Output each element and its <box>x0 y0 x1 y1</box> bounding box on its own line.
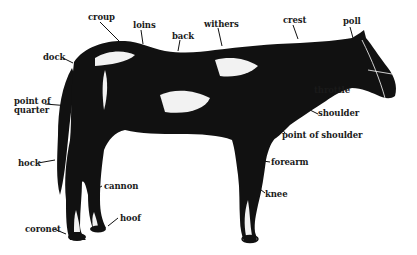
label-knee: knee <box>265 190 288 199</box>
label-croup: croup <box>88 13 115 22</box>
label-hock: hock <box>18 159 41 168</box>
label-crest: crest <box>283 16 306 25</box>
label-shoulder: shoulder <box>318 109 359 118</box>
label-throttle: throttle <box>314 86 350 95</box>
label-poll: poll <box>343 17 361 26</box>
label-loins: loins <box>133 21 156 30</box>
label-hoof: hoof <box>120 214 141 223</box>
label-point-of-quarter: point of quarter <box>14 97 62 115</box>
label-coronet: coronet <box>25 225 61 234</box>
label-point-of-shoulder: point of shoulder <box>282 131 362 140</box>
label-cannon: cannon <box>104 182 138 191</box>
label-dock: dock <box>43 53 65 62</box>
label-forearm: forearm <box>271 158 309 167</box>
label-withers: withers <box>204 20 239 29</box>
label-back: back <box>172 32 194 41</box>
horse-illustration <box>0 0 417 255</box>
horse-anatomy-diagram: croup loins withers back crest poll dock… <box>0 0 417 255</box>
